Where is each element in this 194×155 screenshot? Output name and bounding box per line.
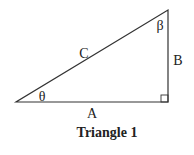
side-b-label: B [173, 53, 182, 68]
triangle-diagram: θ β C B A Triangle 1 [0, 0, 194, 155]
side-a-label: A [87, 106, 98, 121]
side-c-label: C [79, 46, 88, 61]
angle-beta-label: β [156, 18, 163, 33]
angle-theta-label: θ [39, 89, 46, 104]
figure-caption: Triangle 1 [77, 125, 138, 140]
right-angle-marker [161, 95, 168, 102]
